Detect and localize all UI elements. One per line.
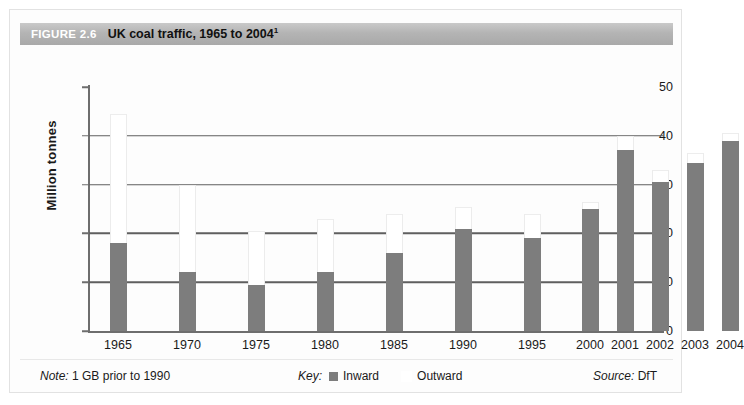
x-tick-label: 1980: [311, 338, 339, 352]
bar-group[interactable]: [455, 87, 472, 331]
figure-source: Source: DfT: [593, 369, 657, 383]
bar-segment-inward[interactable]: [722, 141, 739, 331]
bar-segment-inward[interactable]: [652, 182, 669, 331]
bar-segment-inward[interactable]: [179, 272, 196, 331]
y-tick-mark: [82, 281, 89, 283]
chart-bars-layer: [89, 50, 664, 332]
chart-plot-area: Million tonnes 01020304050 1965197019751…: [20, 50, 673, 355]
figure-number-label: FIGURE 2.6: [31, 28, 97, 40]
x-tick-label: 1965: [104, 338, 132, 352]
y-tick-mark: [82, 330, 89, 332]
legend-entry-outward[interactable]: Outward: [401, 369, 462, 383]
bar-group[interactable]: [386, 87, 403, 331]
x-tick-label: 2001: [611, 338, 639, 352]
bar-segment-inward[interactable]: [386, 253, 403, 331]
y-tick-mark: [82, 86, 89, 88]
figure-title: UK coal traffic, 1965 to 20041: [108, 26, 279, 41]
bar-group[interactable]: [317, 87, 334, 331]
x-tick-label: 1990: [449, 338, 477, 352]
legend-swatch-inward-icon: [329, 372, 338, 381]
legend-label: Key:: [298, 369, 322, 383]
bar-segment-inward[interactable]: [455, 229, 472, 331]
bar-group[interactable]: [110, 87, 127, 331]
bar-segment-inward[interactable]: [524, 238, 541, 331]
bar-group[interactable]: [617, 87, 634, 331]
x-tick-label: 2004: [716, 338, 744, 352]
figure-footer: Note: 1 GB prior to 1990 Key: Inward Out…: [20, 366, 673, 388]
bar-segment-inward[interactable]: [617, 150, 634, 331]
bar-group[interactable]: [652, 87, 669, 331]
footer-divider: [20, 359, 673, 360]
y-axis-title: Million tonnes: [44, 91, 59, 241]
chart-legend: Key: Inward Outward: [298, 369, 484, 383]
x-tick-label: 2002: [646, 338, 674, 352]
figure-title-text: UK coal traffic, 1965 to 2004: [108, 28, 274, 42]
bar-group[interactable]: [582, 87, 599, 331]
figure-note: Note: 1 GB prior to 1990: [40, 369, 170, 383]
x-tick-label: 1985: [380, 338, 408, 352]
bar-group[interactable]: [687, 87, 704, 331]
figure-title-footnote-marker: 1: [274, 26, 278, 35]
y-tick-mark: [82, 184, 89, 186]
figure-title-bar: FIGURE 2.6 UK coal traffic, 1965 to 2004…: [20, 23, 673, 45]
bar-segment-inward[interactable]: [687, 163, 704, 331]
legend-swatch-outward-icon: [401, 371, 412, 382]
legend-text-inward: Inward: [343, 369, 379, 383]
figure-source-text: DfT: [638, 369, 657, 383]
bar-group[interactable]: [179, 87, 196, 331]
figure-frame: FIGURE 2.6 UK coal traffic, 1965 to 2004…: [9, 9, 682, 393]
x-tick-label: 1975: [242, 338, 270, 352]
x-tick-label: 2000: [576, 338, 604, 352]
bar-segment-inward[interactable]: [317, 272, 334, 331]
figure-source-prefix: Source:: [593, 369, 634, 383]
x-tick-label: 2003: [681, 338, 709, 352]
x-tick-label: 1970: [173, 338, 201, 352]
bar-group[interactable]: [524, 87, 541, 331]
bar-segment-inward[interactable]: [110, 243, 127, 331]
x-tick-label: 1995: [518, 338, 546, 352]
y-tick-mark: [82, 233, 89, 235]
bar-group[interactable]: [248, 87, 265, 331]
bar-segment-inward[interactable]: [248, 285, 265, 331]
figure-note-prefix: Note:: [40, 369, 69, 383]
bar-group[interactable]: [722, 87, 739, 331]
bar-segment-inward[interactable]: [582, 209, 599, 331]
legend-text-outward: Outward: [417, 369, 462, 383]
legend-entry-inward[interactable]: Inward: [329, 369, 379, 383]
figure-note-text: 1 GB prior to 1990: [72, 369, 170, 383]
y-tick-mark: [82, 135, 89, 137]
